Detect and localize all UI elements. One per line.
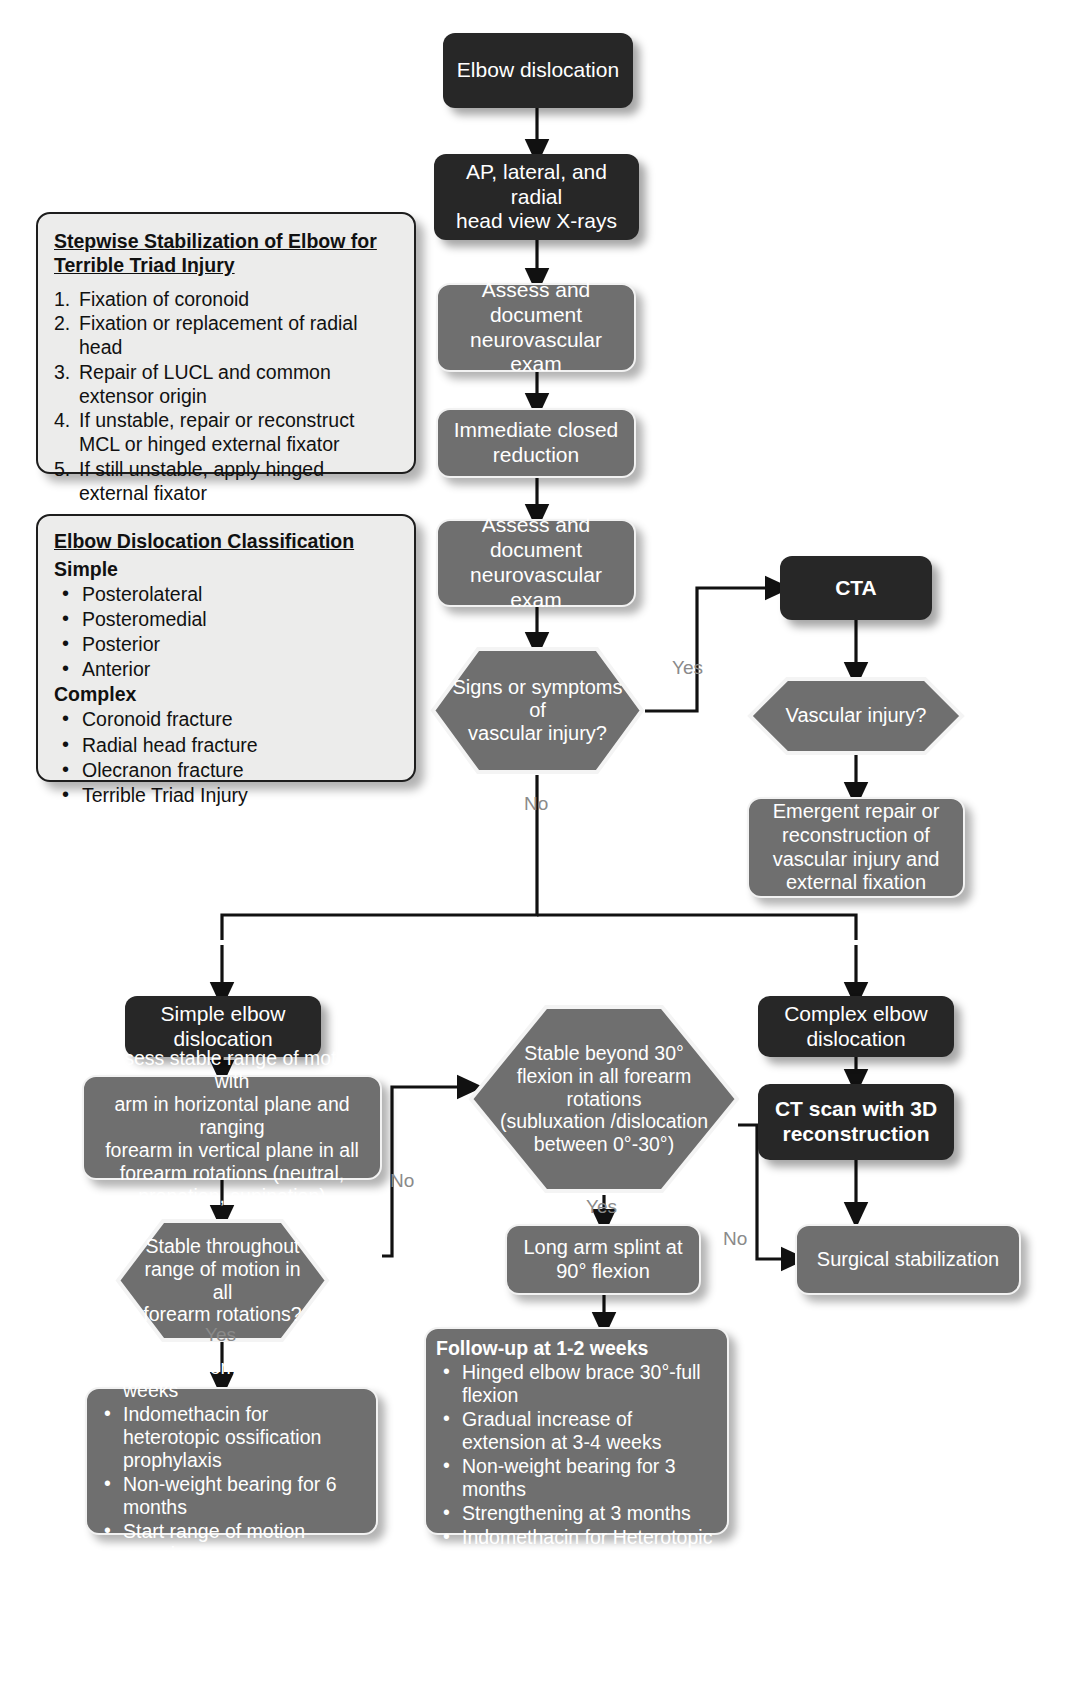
step-text: Fixation or replacement of radial head [79, 312, 358, 358]
node-label: Signs or symptoms of vascular injury? [449, 676, 625, 746]
list-item: 2.Fixation or replacement of radial head [54, 312, 398, 360]
list-item: 1.Fixation of coronoid [54, 288, 398, 312]
list-item: Indomethacin for Heterotopic ossificatio… [436, 1526, 721, 1572]
followup-heading: Follow-up at 1-2 weeks [436, 1337, 721, 1360]
node-label: Stable beyond 30° flexion in all forearm… [482, 1042, 727, 1155]
edge-label-yes-throughout: Yes [205, 1324, 236, 1346]
node-label: AP, lateral, and radial head view X-rays [434, 160, 639, 234]
followup-bullets: Follow-up at 1-2 weeks Hinged elbow brac… [426, 1337, 727, 1573]
list-item: Radial head fracture [54, 733, 398, 757]
step-number: 3. [54, 361, 70, 385]
node-label: Assess and document neurovascular exam [438, 513, 634, 612]
list-item: Non-weight bearing for 3 months [436, 1455, 721, 1501]
list-item: Anterior [54, 657, 398, 681]
edge-signs-no-split-right [537, 915, 856, 940]
decision-vascular-injury[interactable]: Vascular injury? [747, 676, 965, 756]
step-text: If still unstable, apply hinged external… [79, 458, 324, 504]
edge-label-yes-stable30: Yes [586, 1196, 617, 1218]
step-number: 1. [54, 288, 70, 312]
node-emergent-repair[interactable]: Emergent repair or reconstruction of vas… [747, 797, 965, 898]
classification-simple-items: Posterolateral Posteromedial Posterior A… [54, 582, 398, 682]
step-text: If unstable, repair or reconstruct MCL o… [79, 409, 354, 455]
node-followup-list[interactable]: Follow-up at 1-2 weeks Hinged elbow brac… [424, 1327, 729, 1535]
panel-title: Stepwise Stabilization of Elbow for Terr… [54, 230, 398, 278]
list-item: Hinged elbow brace 30°-full flexion [436, 1361, 721, 1407]
node-label: Elbow dislocation [443, 58, 633, 83]
node-assess-neurovascular-1[interactable]: Assess and document neurovascular exam [436, 283, 636, 372]
node-label: Simple elbow dislocation [125, 1002, 321, 1052]
classification-complex-label: Complex [54, 683, 398, 706]
node-label: Stable throughout range of motion in all… [134, 1235, 310, 1325]
node-surgical-stabilization[interactable]: Surgical stabilization [795, 1224, 1021, 1295]
flowchart-canvas: Elbow dislocation AP, lateral, and radia… [0, 0, 1067, 1706]
list-item: Posteromedial [54, 607, 398, 631]
list-item: Olecranon fracture [54, 758, 398, 782]
step-text: Repair of LUCL and common extensor origi… [79, 361, 331, 407]
panel-stepwise-stabilization: Stepwise Stabilization of Elbow for Terr… [36, 212, 416, 474]
node-complex-elbow-dislocation[interactable]: Complex elbow dislocation [758, 996, 954, 1057]
node-assess-stable-range-of-motion[interactable]: Assess stable range of motion with arm i… [82, 1075, 382, 1180]
list-item: Posterior [54, 632, 398, 656]
node-label: Immediate closed reduction [438, 418, 634, 468]
node-label: Assess stable range of motion with arm i… [84, 1047, 380, 1208]
list-item: Strengthening at 3 months [436, 1502, 721, 1525]
node-assess-neurovascular-2[interactable]: Assess and document neurovascular exam [436, 519, 636, 607]
node-immediate-closed-reduction[interactable]: Immediate closed reduction [436, 408, 636, 478]
node-long-arm-splint[interactable]: Long arm splint at 90° flexion [505, 1224, 701, 1295]
list-item: Gradual increase of extension at 3-4 wee… [436, 1408, 721, 1454]
list-item: 3.Repair of LUCL and common extensor ori… [54, 361, 398, 409]
list-item: Coronoid fracture [54, 707, 398, 731]
list-item: Indomethacin for heterotopic ossificatio… [97, 1403, 370, 1472]
edge-label-no-rom: No [390, 1170, 414, 1192]
list-item: Start range of motion exercises [97, 1520, 370, 1566]
panel-title: Elbow Dislocation Classification [54, 530, 398, 554]
node-label: CTA [780, 576, 932, 601]
node-label: Vascular injury? [767, 704, 946, 727]
list-item: Sling for comfort for 1-2 weeks [97, 1356, 370, 1402]
node-label: CT scan with 3D reconstruction [758, 1097, 954, 1147]
step-text: Fixation of coronoid [79, 288, 249, 310]
edge-label-yes-vascular: Yes [672, 657, 703, 679]
decision-stable-beyond-30-flexion[interactable]: Stable beyond 30° flexion in all forearm… [468, 1004, 740, 1194]
list-item: Non-weight bearing for 6 months [97, 1473, 370, 1519]
node-elbow-dislocation[interactable]: Elbow dislocation [443, 33, 633, 108]
node-simple-outcome-list[interactable]: Sling for comfort for 1-2 weeks Indometh… [85, 1387, 378, 1535]
node-label: Emergent repair or reconstruction of vas… [749, 800, 963, 894]
edge-label-no-vascular: No [524, 793, 548, 815]
step-number: 4. [54, 409, 70, 433]
list-item: 4.If unstable, repair or reconstruct MCL… [54, 409, 398, 457]
classification-complex-items: Coronoid fracture Radial head fracture O… [54, 707, 398, 807]
node-label: Surgical stabilization [797, 1248, 1019, 1272]
classification-simple-label: Simple [54, 558, 398, 581]
step-number: 5. [54, 458, 70, 482]
bullet-list: Hinged elbow brace 30°-full flexion Grad… [436, 1361, 721, 1572]
node-label: Assess and document neurovascular exam [438, 278, 634, 377]
node-xrays[interactable]: AP, lateral, and radial head view X-rays [434, 154, 639, 240]
node-cta[interactable]: CTA [780, 556, 932, 620]
panel-steps: 1.Fixation of coronoid 2.Fixation or rep… [54, 288, 398, 506]
node-label: Complex elbow dislocation [758, 1002, 954, 1052]
step-number: 2. [54, 312, 70, 336]
node-ct-scan-3d[interactable]: CT scan with 3D reconstruction [758, 1084, 954, 1160]
decision-signs-of-vascular-injury[interactable]: Signs or symptoms of vascular injury? [430, 646, 645, 775]
panel-elbow-dislocation-classification: Elbow Dislocation Classification Simple … [36, 514, 416, 782]
outcome-bullets: Sling for comfort for 1-2 weeks Indometh… [87, 1356, 376, 1567]
bullet-list: Sling for comfort for 1-2 weeks Indometh… [97, 1356, 370, 1566]
edge-label-no-stable30: No [723, 1228, 747, 1250]
list-item: Terrible Triad Injury [54, 783, 398, 807]
list-item: 5.If still unstable, apply hinged extern… [54, 458, 398, 506]
node-label: Long arm splint at 90° flexion [507, 1236, 699, 1283]
list-item: Posterolateral [54, 582, 398, 606]
